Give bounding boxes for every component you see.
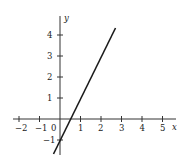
- y-tick-label: 4: [47, 30, 52, 40]
- x-tick-label: 2: [98, 123, 103, 133]
- origin-label: 0: [51, 123, 56, 133]
- y-tick-label: −1: [43, 135, 56, 145]
- x-tick-label: −2: [15, 123, 28, 133]
- x-tick-label: 1: [78, 123, 83, 133]
- x-tick-label: 3: [119, 123, 124, 133]
- y-tick-label: 3: [47, 51, 52, 61]
- chart: −2 −1 0 1 2 3 4 5 x 4 3 2 1 −1 y: [0, 0, 187, 165]
- x-axis-label: x: [172, 122, 177, 132]
- x-tick-label: −1: [35, 123, 48, 133]
- y-tick-label: 1: [47, 93, 52, 103]
- y-tick-label: 2: [47, 72, 52, 82]
- x-tick-label: 4: [140, 123, 145, 133]
- line-series: [54, 28, 116, 154]
- y-axis-label: y: [63, 13, 69, 23]
- x-tick-label: 5: [160, 123, 165, 133]
